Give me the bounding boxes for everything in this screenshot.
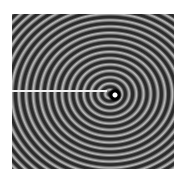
ring-pattern-figure (12, 14, 174, 169)
horizontal-line (12, 90, 107, 92)
